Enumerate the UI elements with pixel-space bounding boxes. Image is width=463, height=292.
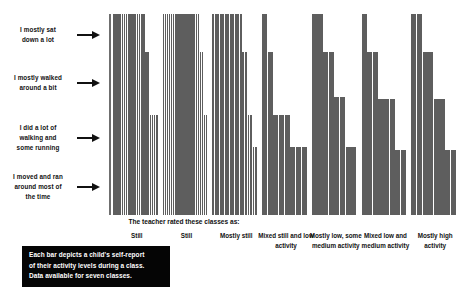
bar xyxy=(401,150,406,215)
y-axis-line xyxy=(109,14,111,215)
y-annotation-line: I mostly sat xyxy=(0,25,76,35)
bar xyxy=(273,115,278,216)
y-annotation-walked-around-a-bit: I mostly walked around a bit xyxy=(0,66,110,100)
bar xyxy=(367,52,372,215)
y-annotation-line: I mostly walked xyxy=(0,73,76,83)
bar xyxy=(411,14,416,215)
bar xyxy=(268,52,273,215)
bar xyxy=(384,99,389,215)
y-annotation-line: I moved and ran xyxy=(0,172,76,182)
bar xyxy=(434,99,439,215)
arrow-right-icon xyxy=(77,134,103,143)
bar xyxy=(351,147,356,215)
y-axis-annotations: I mostly sat down a lot I mostly walked … xyxy=(0,0,110,215)
bar xyxy=(417,14,422,215)
x-axis-label: Mostly high activity xyxy=(407,231,463,251)
bar xyxy=(285,115,290,216)
caption-line: Data available for seven classes. xyxy=(29,271,164,282)
bar xyxy=(378,99,383,215)
x-axis-label: Still xyxy=(159,231,215,241)
x-axis-label: Still xyxy=(109,231,165,241)
y-annotation-line: walking and xyxy=(0,133,76,143)
bar-group xyxy=(113,14,158,215)
y-annotation-line: down a lot xyxy=(0,35,76,45)
bar xyxy=(279,115,284,216)
bar xyxy=(262,14,267,215)
y-annotation-line: I did a lot of xyxy=(0,123,76,133)
arrow-right-icon xyxy=(77,79,103,88)
arrow-right-icon xyxy=(77,183,103,192)
bar xyxy=(296,147,301,215)
x-axis-label: Mixed low and medium activity xyxy=(358,231,414,251)
x-axis-label: Mixed still and low activity xyxy=(258,231,314,251)
caption-line: Each bar depicts a child's self-report xyxy=(29,250,164,261)
y-annotation-walking-some-running: I did a lot of walking and some running xyxy=(0,117,110,159)
arrow-head xyxy=(92,134,100,142)
bar xyxy=(390,99,395,215)
x-axis-label: Mostly still xyxy=(208,231,264,241)
y-annotation-moved-and-ran: I moved and ran around most of the time xyxy=(0,166,110,208)
bar-group xyxy=(262,14,307,215)
caption-line: of their activity levels during a class. xyxy=(29,261,164,272)
arrow-right-icon xyxy=(77,31,103,40)
bar-chart-plot-area xyxy=(112,14,460,215)
bar xyxy=(206,115,208,216)
bar-group xyxy=(411,14,456,215)
bar xyxy=(373,52,378,215)
x-axis-title: The teacher rated these classes as: xyxy=(104,218,264,225)
y-annotation-line: some running xyxy=(0,143,76,153)
y-annotation-line: the time xyxy=(0,192,76,202)
bar xyxy=(445,150,450,215)
caption-box: Each bar depicts a child's self-report o… xyxy=(22,246,170,287)
y-annotation-label: I did a lot of walking and some running xyxy=(0,123,76,152)
bar xyxy=(317,14,322,215)
bar xyxy=(362,14,367,215)
bar xyxy=(346,147,351,215)
arrow-head xyxy=(92,79,100,87)
bar-group xyxy=(312,14,357,215)
bar xyxy=(428,52,433,215)
bar-group xyxy=(163,14,208,215)
bar xyxy=(395,150,400,215)
y-annotation-label: I mostly walked around a bit xyxy=(0,73,76,93)
y-annotation-label: I mostly sat down a lot xyxy=(0,25,76,45)
bar xyxy=(156,115,158,216)
bar xyxy=(451,150,456,215)
bar xyxy=(323,52,328,215)
bar xyxy=(423,52,428,215)
bar-group xyxy=(362,14,407,215)
bar xyxy=(334,97,339,215)
y-annotation-line: around a bit xyxy=(0,83,76,93)
bar xyxy=(290,147,295,215)
bar xyxy=(312,14,317,215)
y-annotation-line: around most of xyxy=(0,182,76,192)
arrow-head xyxy=(92,31,100,39)
bar-group xyxy=(212,14,257,215)
bar xyxy=(340,97,345,215)
y-annotation-sat-down-a-lot: I mostly sat down a lot xyxy=(0,18,110,52)
bar xyxy=(255,147,257,215)
bar xyxy=(439,99,444,215)
bar xyxy=(329,52,334,215)
y-annotation-label: I moved and ran around most of the time xyxy=(0,172,76,201)
x-axis-label: Mostly low, some medium activity xyxy=(308,231,364,251)
bar xyxy=(302,147,307,215)
arrow-head xyxy=(92,183,100,191)
